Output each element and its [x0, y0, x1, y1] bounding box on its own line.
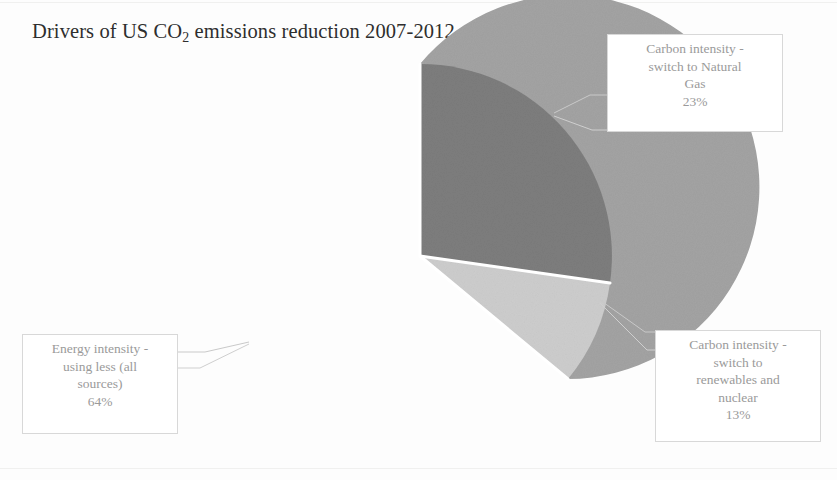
callout-renewables-line3: renewables and	[696, 372, 780, 387]
callout-renewables-percent: 13%	[662, 406, 814, 424]
callout-energy-intensity-percent: 64%	[29, 393, 171, 411]
callout-natural-gas-line3: Gas	[685, 76, 706, 91]
callout-energy-intensity-line2: using less (all	[63, 359, 137, 374]
callout-renewables-line4: nuclear	[718, 390, 758, 405]
callout-energy-intensity-line1: Energy intensity -	[52, 341, 148, 356]
callout-renewables-line1: Carbon intensity -	[689, 337, 787, 352]
callout-natural-gas-line1: Carbon intensity -	[646, 41, 744, 56]
callout-natural-gas[interactable]: Carbon intensity - switch to Natural Gas…	[607, 34, 783, 132]
callout-renewables[interactable]: Carbon intensity - switch to renewables …	[655, 330, 821, 442]
callout-natural-gas-line2: switch to Natural	[649, 59, 742, 74]
chart-page: Drivers of US CO2 emissions reduction 20…	[0, 0, 837, 480]
callout-energy-intensity[interactable]: Energy intensity - using less (all sourc…	[22, 334, 178, 434]
callout-natural-gas-percent: 23%	[614, 93, 776, 111]
callout-renewables-line2: switch to	[713, 355, 762, 370]
callout-energy-intensity-line3: sources)	[78, 376, 123, 391]
